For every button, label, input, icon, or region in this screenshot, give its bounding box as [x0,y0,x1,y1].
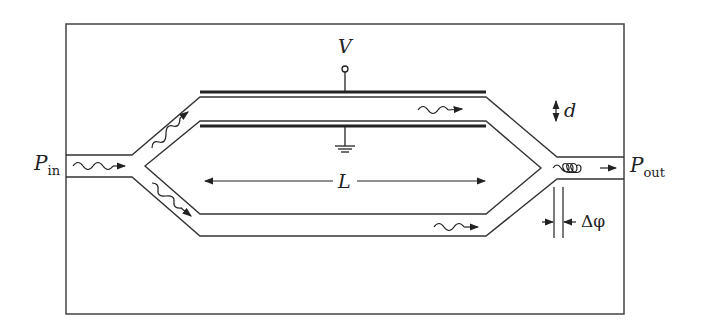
phase-difference-marker [542,187,576,238]
output-power-label: Pout [630,153,665,177]
upper-arm-wave-right [418,107,448,114]
waveguide [66,97,624,236]
input-power-symbol: P [34,151,47,175]
lower-arm-wave-right [434,224,464,231]
input-power-label: Pin [34,151,60,175]
gap-label: d [564,99,576,121]
output-wave [553,164,581,173]
voltage-terminal [342,66,348,92]
phase-difference-label: Δφ [581,211,605,231]
ground-icon [335,126,355,152]
upper-arm-wave [152,118,180,148]
input-power-subscript: in [47,163,60,178]
output-power-subscript: out [643,165,664,180]
input-wave [73,163,113,170]
output-power-symbol: P [630,153,643,177]
lower-arm-wave [152,183,182,208]
length-label: L [338,170,351,192]
voltage-label: V [338,35,352,57]
